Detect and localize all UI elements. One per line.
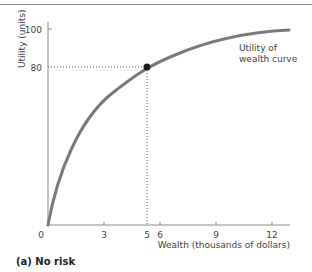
- curve-label-line2: wealth curve: [239, 54, 298, 64]
- curve-label-line1: Utility of: [239, 43, 278, 53]
- y-tick-label-100: 100: [25, 25, 42, 35]
- x-axis-title: Wealth (thousands of dollars): [158, 240, 290, 250]
- x-tick-label-12: 12: [266, 230, 277, 240]
- y-tick-label-80: 80: [31, 63, 43, 73]
- x-tick-label-5: 5: [144, 230, 150, 240]
- figure-caption: (a) No risk: [16, 256, 75, 267]
- chart: 100 80 0 3 5 6 9 12 Wealth (thousands of…: [0, 0, 312, 272]
- y-axis-title: Utility (units): [17, 10, 27, 68]
- x-tick-label-3: 3: [101, 230, 107, 240]
- x-tick-label-9: 9: [213, 230, 219, 240]
- x-tick-label-6: 6: [157, 230, 163, 240]
- highlight-point: [144, 64, 151, 71]
- x-tick-label-0: 0: [38, 230, 44, 240]
